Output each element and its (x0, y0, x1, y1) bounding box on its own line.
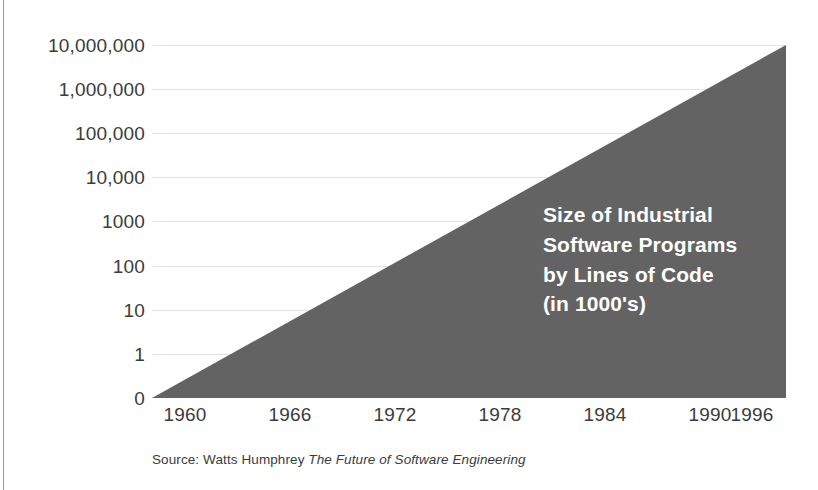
chart-title-line: Software Programs (543, 230, 793, 260)
source-prefix: Source: Watts Humphrey (152, 452, 305, 467)
y-tick-label: 100 (5, 257, 145, 276)
y-tick-label: 1 (5, 345, 145, 364)
chart-figure: 10,000,000 1,000,000 100,000 10,000 1000… (0, 0, 818, 490)
chart-title-line: (in 1000's) (543, 289, 793, 319)
x-tick-label: 1978 (455, 404, 545, 427)
x-axis: 1960 1966 1972 1978 1984 1990 1996 (152, 404, 786, 434)
y-tick-label: 10 (5, 301, 145, 320)
y-tick-label: 10,000 (5, 168, 145, 187)
x-tick-label: 1966 (245, 404, 335, 427)
source-work-title: The Future of Software Engineering (308, 452, 525, 467)
chart-title-line: by Lines of Code (543, 260, 793, 290)
source-caption: Source: Watts Humphrey The Future of Sof… (152, 452, 526, 467)
y-tick-label: 1000 (5, 212, 145, 231)
x-tick-label: 1996 (707, 404, 797, 427)
y-tick-label: 0 (5, 389, 145, 408)
y-tick-label: 100,000 (5, 124, 145, 143)
y-tick-label: 1,000,000 (5, 80, 145, 99)
chart-title-line: Size of Industrial (543, 200, 793, 230)
y-tick-label: 10,000,000 (5, 36, 145, 55)
x-tick-label: 1984 (560, 404, 650, 427)
chart-title: Size of Industrial Software Programs by … (543, 200, 793, 319)
x-tick-label: 1972 (350, 404, 440, 427)
x-tick-label: 1960 (140, 404, 230, 427)
y-axis: 10,000,000 1,000,000 100,000 10,000 1000… (0, 45, 145, 398)
